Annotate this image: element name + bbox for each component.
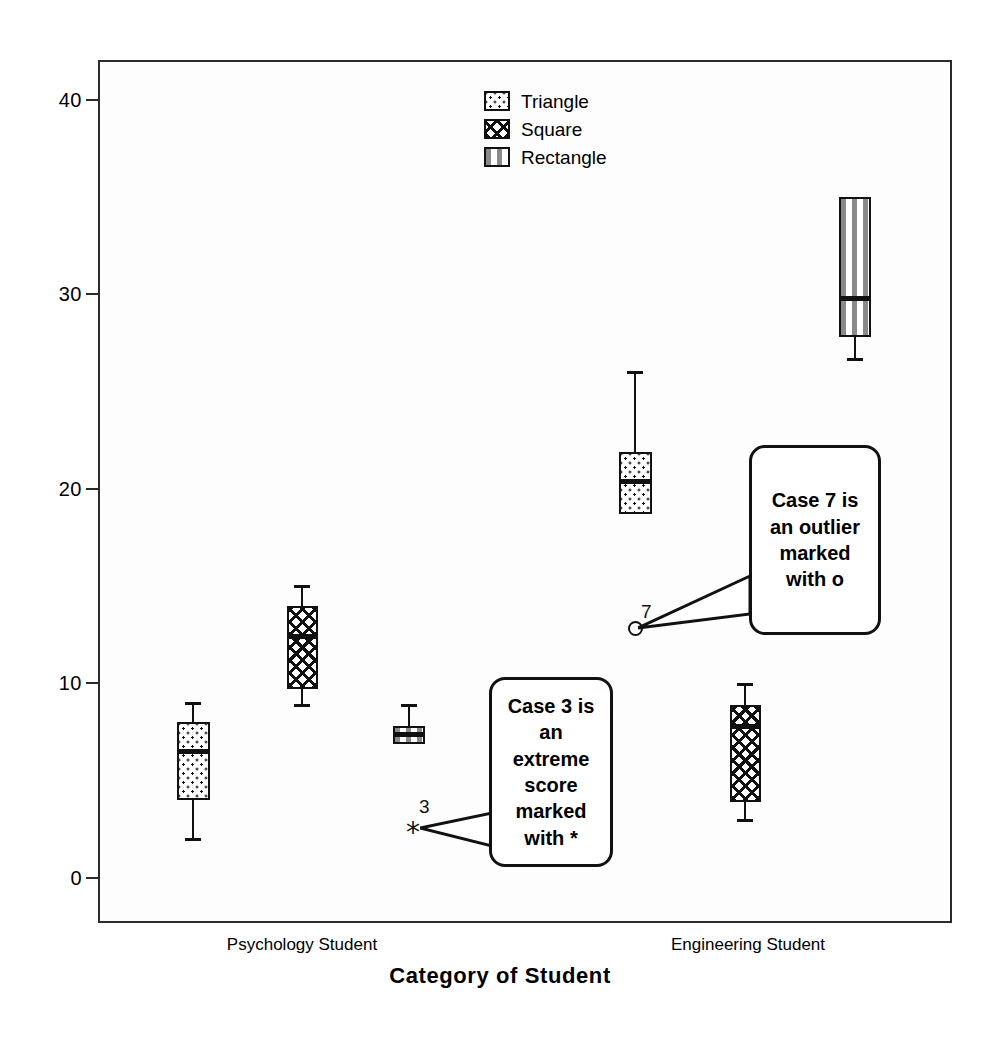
legend-item-triangle: Triangle bbox=[484, 88, 607, 114]
lower-whisker-line bbox=[192, 800, 194, 839]
legend-item-rectangle: Rectangle bbox=[484, 144, 607, 170]
upper-whisker-line bbox=[192, 703, 194, 722]
lower-whisker-line bbox=[854, 337, 856, 358]
box-iqr bbox=[730, 705, 761, 802]
y-tick-label-40: 40 bbox=[59, 89, 82, 112]
legend: Triangle Square Rectangle bbox=[484, 88, 607, 172]
median-line bbox=[393, 732, 425, 737]
x-tick-label-psychology: Psychology Student bbox=[227, 935, 377, 955]
legend-label-rectangle: Rectangle bbox=[521, 148, 607, 167]
y-tick-mark-30 bbox=[86, 293, 98, 295]
upper-whisker-line bbox=[408, 705, 410, 726]
y-tick-mark-40 bbox=[86, 99, 98, 101]
upper-whisker-cap bbox=[737, 683, 753, 686]
upper-whisker-cap bbox=[294, 585, 310, 588]
median-line bbox=[287, 634, 318, 639]
median-line bbox=[839, 296, 871, 301]
upper-whisker-cap bbox=[185, 702, 201, 705]
box-iqr bbox=[177, 722, 210, 800]
extreme-callout: Case 3 is an extreme score marked with * bbox=[489, 677, 613, 867]
lower-whisker-line bbox=[301, 689, 303, 705]
boxplot-chart: 40 30 20 10 0 Triangle Square bbox=[0, 0, 1000, 1038]
lower-whisker-cap bbox=[737, 819, 753, 822]
upper-whisker-line bbox=[301, 586, 303, 605]
y-tick-label-30: 30 bbox=[59, 283, 82, 306]
upper-whisker-line bbox=[744, 684, 746, 705]
legend-swatch-triangle-icon bbox=[484, 91, 510, 111]
lower-whisker-cap bbox=[847, 358, 863, 361]
legend-label-triangle: Triangle bbox=[521, 92, 589, 111]
median-line bbox=[177, 749, 210, 754]
y-tick-marks bbox=[86, 0, 100, 1038]
x-tick-label-engineering: Engineering Student bbox=[671, 935, 825, 955]
box-iqr bbox=[287, 606, 318, 690]
y-tick-mark-0 bbox=[86, 877, 98, 879]
lower-whisker-cap bbox=[185, 838, 201, 841]
upper-whisker-cap bbox=[401, 704, 417, 707]
y-tick-label-0: 0 bbox=[70, 867, 82, 890]
lower-whisker-line bbox=[744, 802, 746, 820]
upper-whisker-cap bbox=[627, 371, 643, 374]
legend-swatch-square-icon bbox=[484, 119, 510, 139]
median-line bbox=[730, 724, 761, 729]
outlier-callout: Case 7 is an outlier marked with o bbox=[749, 445, 881, 635]
y-tick-label-20: 20 bbox=[59, 478, 82, 501]
legend-item-square: Square bbox=[484, 116, 607, 142]
y-tick-label-10: 10 bbox=[59, 672, 82, 695]
median-line bbox=[619, 479, 652, 484]
legend-swatch-rectangle-icon bbox=[484, 147, 510, 167]
upper-whisker-line bbox=[634, 372, 636, 452]
box-iqr bbox=[839, 197, 871, 337]
y-tick-mark-10 bbox=[86, 682, 98, 684]
x-axis-title: Category of Student bbox=[0, 963, 1000, 989]
lower-whisker-cap bbox=[294, 704, 310, 707]
legend-label-square: Square bbox=[521, 120, 582, 139]
y-axis: 40 30 20 10 0 bbox=[0, 0, 98, 1038]
extreme-marker-icon: * bbox=[406, 828, 420, 838]
y-tick-mark-20 bbox=[86, 488, 98, 490]
